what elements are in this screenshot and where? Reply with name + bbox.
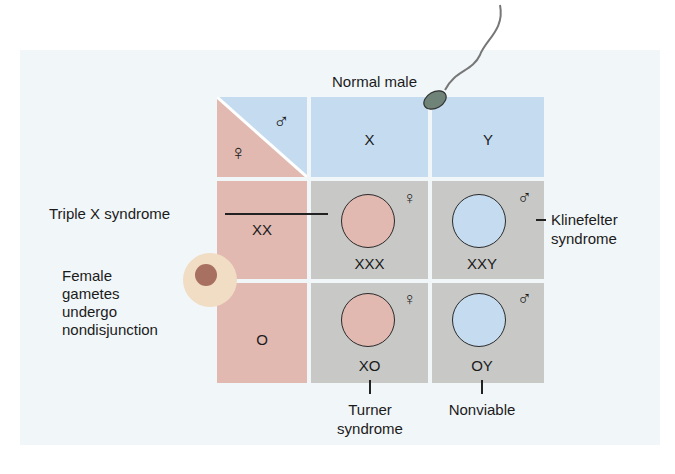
cell-oy: ♂ OY <box>432 283 544 383</box>
male-icon: ♂ <box>273 111 290 133</box>
corner-diagonal <box>217 97 307 177</box>
female-icon: ♀ <box>230 142 247 164</box>
zygote-female-circle <box>341 293 395 347</box>
nonviable-label: Nonviable <box>432 401 532 418</box>
triple-x-label: Triple X syndrome <box>49 205 170 222</box>
zygote-male-circle <box>452 293 506 347</box>
male-icon: ♂ <box>517 288 532 308</box>
female-gametes-line1: Female <box>62 267 112 284</box>
corner-cell: ♂ ♀ <box>217 97 307 177</box>
female-gametes-line2: gametes <box>62 285 120 302</box>
klinefelter-label-line1: Klinefelter <box>551 211 618 228</box>
female-gametes-line3: undergo <box>62 303 117 320</box>
turner-label-line1: Turner <box>320 401 420 418</box>
triple-x-leader-line <box>225 213 328 215</box>
sperm-icon <box>410 0 530 110</box>
cell-xxx: ♀ XXX <box>311 181 428 279</box>
male-icon: ♂ <box>517 187 532 207</box>
zygote-female-circle <box>341 194 395 248</box>
nonviable-leader-line <box>481 380 483 394</box>
klinefelter-label-line2: syndrome <box>551 230 617 247</box>
cell-xo: ♀ XO <box>311 283 428 383</box>
klinefelter-leader-line <box>536 219 546 221</box>
cell-xxy: ♂ XXY <box>432 181 544 279</box>
normal-male-label: Normal male <box>332 73 417 90</box>
zygote-male-circle <box>452 194 506 248</box>
female-icon: ♀ <box>403 290 417 308</box>
turner-label-line2: syndrome <box>320 420 420 437</box>
female-icon: ♀ <box>403 189 417 207</box>
female-gametes-line4: nondisjunction <box>62 321 158 338</box>
turner-leader-line <box>369 380 371 394</box>
egg-cell-icon <box>180 250 240 310</box>
